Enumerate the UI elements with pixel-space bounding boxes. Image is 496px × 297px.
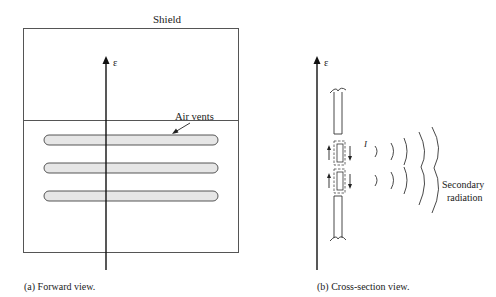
e-field-label-a: ε	[113, 58, 117, 69]
break-mark-upper	[330, 88, 346, 93]
arrow-down-icon	[348, 184, 352, 189]
secondary-radiation-label-2: radiation	[447, 193, 483, 203]
diagram-canvas	[0, 0, 496, 297]
air-vent	[44, 191, 218, 201]
pointer-arrowhead-icon	[172, 129, 179, 135]
secondary-radiation-label-1: Secondary	[442, 180, 484, 190]
shield-label: Shield	[153, 14, 181, 25]
shield-wall-upper	[334, 92, 342, 134]
radiation-arc	[375, 175, 377, 186]
current-label: I	[364, 140, 367, 149]
e-field-arrowhead-icon	[314, 56, 321, 64]
caption-a: (a) Forward view.	[24, 282, 95, 292]
air-vent	[44, 135, 218, 145]
air-vent	[44, 163, 218, 173]
break-mark-lower	[330, 237, 346, 241]
radiation-arc	[404, 138, 407, 165]
forward-view	[24, 29, 239, 271]
radiation-arc-large	[432, 127, 439, 213]
shield-wall-lower	[334, 196, 342, 238]
caption-b: (b) Cross-section view.	[317, 282, 409, 292]
e-field-arrowhead-icon	[103, 56, 110, 64]
vent-section-core	[337, 144, 343, 162]
radiation-arc	[404, 167, 407, 194]
radiation-arc	[391, 143, 394, 160]
shield-outline	[24, 29, 239, 121]
vent-section-core	[337, 172, 343, 190]
air-vents-label: Air vents	[175, 112, 214, 123]
radiation-arc-large	[419, 132, 425, 205]
radiation-arc	[391, 172, 394, 189]
arrow-up-icon	[327, 173, 331, 178]
e-field-label-b: ε	[324, 58, 328, 69]
arrow-down-icon	[348, 156, 352, 161]
cross-section-view	[314, 56, 439, 270]
arrow-up-icon	[327, 145, 331, 150]
radiation-arc	[375, 146, 377, 157]
